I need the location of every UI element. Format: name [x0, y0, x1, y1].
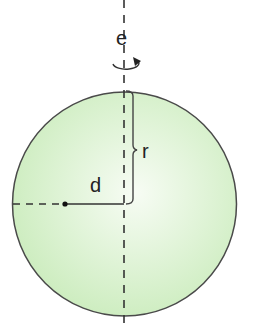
axis-label: e: [116, 27, 127, 49]
point-marker: [62, 201, 67, 206]
radius-label: r: [142, 140, 149, 162]
distance-label: d: [90, 174, 101, 196]
sphere-diagram: e r d: [0, 0, 259, 329]
rotation-arrow-icon: [113, 57, 141, 69]
